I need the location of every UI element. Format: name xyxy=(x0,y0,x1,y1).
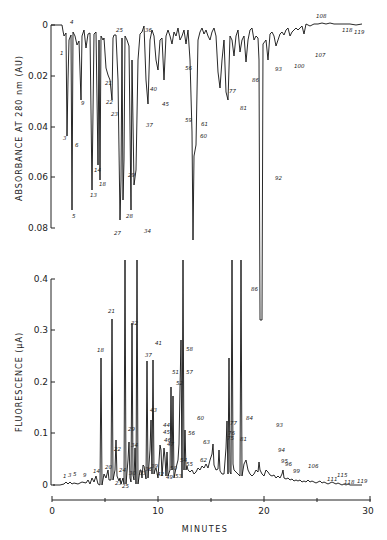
bottom-panel: 0.4 0.3 0.2 0.1 0 FLUORESCENCE (µA) 1 3 … xyxy=(15,260,368,490)
svg-text:21: 21 xyxy=(108,308,115,314)
chromatogram-figure: 0 0.02 0.04 0.06 0.08 ABSORBANCE AT 280 … xyxy=(0,0,387,540)
svg-text:56: 56 xyxy=(188,430,195,436)
svg-text:24: 24 xyxy=(119,467,126,473)
svg-text:57: 57 xyxy=(186,369,193,375)
svg-text:55: 55 xyxy=(186,461,193,467)
svg-text:44: 44 xyxy=(163,422,170,428)
svg-text:118: 118 xyxy=(342,27,353,33)
svg-text:96: 96 xyxy=(285,461,292,467)
svg-text:49: 49 xyxy=(166,474,173,480)
svg-text:39: 39 xyxy=(151,463,158,469)
svg-text:119: 119 xyxy=(354,29,365,35)
svg-text:51: 51 xyxy=(172,369,179,375)
top-tick-4: 0.08 xyxy=(28,223,48,233)
svg-text:18: 18 xyxy=(99,181,106,187)
svg-text:28: 28 xyxy=(126,213,133,219)
svg-text:119: 119 xyxy=(357,478,368,484)
svg-text:58: 58 xyxy=(186,346,193,352)
svg-text:14: 14 xyxy=(94,167,101,173)
svg-text:77: 77 xyxy=(229,88,236,94)
svg-text:9: 9 xyxy=(83,472,87,478)
svg-text:25: 25 xyxy=(116,27,123,33)
svg-text:60: 60 xyxy=(200,133,207,139)
svg-text:56: 56 xyxy=(185,65,192,71)
svg-text:111: 111 xyxy=(327,476,338,482)
svg-text:29: 29 xyxy=(128,426,135,432)
svg-text:118: 118 xyxy=(344,479,355,485)
top-peak-labels: 1 3 4 5 6 9 13 14 18 21 22 23 25 27 28 2… xyxy=(60,13,365,236)
svg-text:100: 100 xyxy=(294,63,305,69)
svg-text:32: 32 xyxy=(131,320,138,326)
svg-text:3: 3 xyxy=(68,472,72,478)
svg-text:9: 9 xyxy=(81,100,85,106)
svg-text:50: 50 xyxy=(170,465,177,471)
svg-text:86: 86 xyxy=(251,286,258,292)
x-axis: 0 10 20 30 MINUTES xyxy=(49,496,374,534)
bottom-tick-1: 0.1 xyxy=(34,428,48,438)
svg-text:77: 77 xyxy=(230,420,237,426)
top-tick-2: 0.04 xyxy=(28,122,48,132)
top-tick-1: 0.02 xyxy=(28,71,48,81)
svg-text:40: 40 xyxy=(150,86,157,92)
svg-text:93: 93 xyxy=(275,66,282,72)
svg-text:52: 52 xyxy=(176,380,183,386)
svg-text:47: 47 xyxy=(167,441,174,447)
bottom-tick-0: 0 xyxy=(42,480,48,490)
svg-text:53: 53 xyxy=(175,473,182,479)
svg-text:1: 1 xyxy=(63,473,67,479)
svg-text:99: 99 xyxy=(293,468,300,474)
svg-text:14: 14 xyxy=(93,468,100,474)
bottom-tick-3: 0.3 xyxy=(34,325,48,335)
bottom-tick-4: 0.4 xyxy=(34,274,49,284)
bottom-peak-labels: 1 3 5 9 14 18 20 21 22 23 24 25 29 30 32… xyxy=(63,286,368,489)
bottom-y-ticks: 0.4 0.3 0.2 0.1 0 xyxy=(34,274,55,490)
svg-text:1: 1 xyxy=(60,50,64,56)
svg-text:62: 62 xyxy=(200,457,207,463)
svg-text:21: 21 xyxy=(105,80,112,86)
top-panel: 0 0.02 0.04 0.06 0.08 ABSORBANCE AT 280 … xyxy=(15,13,365,320)
x-tick-30: 30 xyxy=(362,506,374,516)
svg-text:23: 23 xyxy=(111,111,118,117)
svg-text:93: 93 xyxy=(276,422,283,428)
svg-text:45: 45 xyxy=(162,101,169,107)
svg-text:108: 108 xyxy=(316,13,327,19)
x-tick-10: 10 xyxy=(152,506,164,516)
svg-text:81: 81 xyxy=(240,436,247,442)
svg-text:22: 22 xyxy=(106,99,113,105)
svg-text:107: 107 xyxy=(315,52,326,58)
svg-text:37: 37 xyxy=(145,352,152,358)
svg-text:5: 5 xyxy=(72,213,76,219)
svg-text:42: 42 xyxy=(157,471,164,477)
svg-text:34: 34 xyxy=(144,228,151,234)
svg-text:61: 61 xyxy=(201,121,208,127)
svg-text:63: 63 xyxy=(203,439,210,445)
svg-text:5: 5 xyxy=(73,471,77,477)
svg-text:27: 27 xyxy=(114,230,121,236)
svg-text:29: 29 xyxy=(128,172,135,178)
svg-text:30: 30 xyxy=(129,470,136,476)
svg-text:115: 115 xyxy=(337,472,348,478)
svg-text:76: 76 xyxy=(228,430,235,436)
svg-text:20: 20 xyxy=(105,464,112,470)
svg-text:6: 6 xyxy=(75,142,79,148)
svg-text:18: 18 xyxy=(97,347,104,353)
svg-text:84: 84 xyxy=(246,415,253,421)
svg-text:37: 37 xyxy=(146,122,153,128)
svg-text:81: 81 xyxy=(240,105,247,111)
bottom-tick-2: 0.2 xyxy=(34,377,48,387)
svg-text:41: 41 xyxy=(155,340,162,346)
top-tick-0: 0 xyxy=(42,20,48,30)
top-tick-3: 0.06 xyxy=(28,172,48,182)
svg-text:36: 36 xyxy=(145,27,152,33)
top-y-axis-label: ABSORBANCE AT 280 nm (AU) xyxy=(15,55,24,201)
bottom-y-axis-label: FLUORESCENCE (µA) xyxy=(15,332,24,432)
svg-text:60: 60 xyxy=(197,415,204,421)
svg-text:22: 22 xyxy=(114,446,121,452)
fluorescence-trace xyxy=(53,260,362,485)
svg-text:34: 34 xyxy=(131,442,138,448)
svg-text:45: 45 xyxy=(163,429,170,435)
svg-text:25: 25 xyxy=(122,483,129,489)
svg-text:106: 106 xyxy=(308,463,319,469)
svg-text:4: 4 xyxy=(70,19,74,25)
x-axis-label: MINUTES xyxy=(182,525,229,534)
